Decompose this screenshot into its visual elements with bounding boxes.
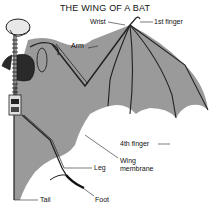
label-wrist: Wrist bbox=[90, 18, 106, 26]
label-tail: Tail bbox=[40, 196, 51, 204]
label-foot: Foot bbox=[95, 196, 109, 204]
label-wing-membrane-1: Wing bbox=[120, 157, 136, 165]
label-leg: Leg bbox=[94, 164, 106, 172]
first-finger-bone bbox=[130, 17, 140, 25]
skull bbox=[6, 19, 30, 35]
label-arm: Arm bbox=[71, 42, 84, 50]
label-first-finger: 1st finger bbox=[154, 18, 183, 26]
ribcage bbox=[2, 54, 35, 81]
bat-wing-illustration bbox=[0, 0, 210, 206]
foot bbox=[66, 175, 84, 188]
label-fourth-finger: 4th finger bbox=[120, 140, 149, 148]
label-wing-membrane-2: membrane bbox=[120, 165, 153, 173]
